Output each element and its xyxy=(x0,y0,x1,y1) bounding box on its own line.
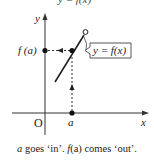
input-label: a xyxy=(68,117,74,128)
output-point xyxy=(42,48,47,53)
origin-label: O xyxy=(34,117,43,129)
up-arrow-icon xyxy=(70,84,75,90)
function-curve xyxy=(55,35,84,82)
open-endpoint xyxy=(83,30,88,35)
x-axis-arrow-icon xyxy=(142,111,149,116)
x-axis-label: x xyxy=(141,117,146,128)
callout-leader xyxy=(84,37,87,50)
function-diagram xyxy=(0,0,154,162)
y-axis-arrow-icon xyxy=(43,13,48,20)
curve-point xyxy=(69,48,74,53)
left-arrow-icon xyxy=(57,48,63,53)
input-point xyxy=(69,110,74,115)
output-label: f (a) xyxy=(18,45,37,56)
caption-fa-arg: (a) xyxy=(70,143,82,154)
caption: a goes ‘in’. f(a) comes ‘out’. xyxy=(0,143,154,154)
y-axis-label: y xyxy=(35,13,40,24)
caption-goes-in: goes ‘in’. xyxy=(22,143,67,154)
caption-comes-out: comes ‘out’. xyxy=(82,143,137,154)
curve-label: y = f(x) xyxy=(93,45,126,56)
